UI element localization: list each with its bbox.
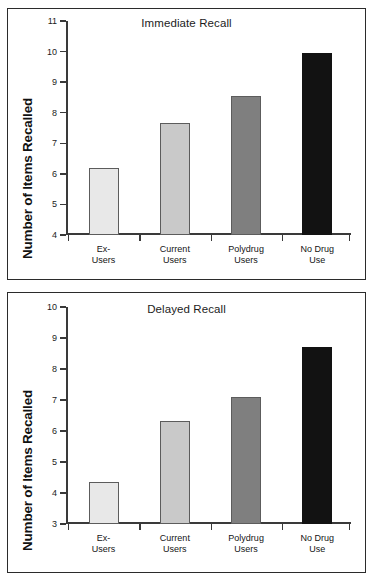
y-tick-mark [60, 204, 67, 205]
y-tick-mark [60, 20, 67, 21]
y-tick-label: 4 [52, 489, 57, 498]
x-tick-label-line: Use [301, 255, 335, 266]
y-tick-label: 8 [52, 108, 57, 117]
x-tick-mark [349, 524, 350, 530]
x-tick-label-delayed-0: Ex-Users [92, 533, 116, 554]
y-tick-label: 10 [47, 47, 57, 56]
x-tick-label-line: Polydrug [228, 533, 264, 544]
y-tick-label: 5 [52, 458, 57, 467]
y-tick-mark [60, 430, 67, 431]
y-tick-mark [60, 523, 67, 524]
y-tick-mark [60, 337, 67, 338]
y-tick-label: 6 [52, 169, 57, 178]
y-axis-line-delayed [66, 307, 68, 524]
x-tick-label-line: No Drug [301, 533, 335, 544]
chart-panel-delayed-recall: Delayed Recall Number of Items Recalled … [7, 292, 366, 573]
x-tick-label-line: Users [228, 255, 264, 266]
y-tick-mark [60, 51, 67, 52]
x-tick-label-line: Ex- [92, 533, 116, 544]
x-tick-mark [211, 235, 212, 241]
x-tick-label-line: Current [160, 244, 190, 255]
y-tick-mark [60, 399, 67, 400]
x-tick-label-line: Users [92, 255, 116, 266]
x-tick-label-delayed-3: No DrugUse [301, 533, 335, 554]
bar-delayed-0 [89, 482, 119, 524]
y-tick-label: 9 [52, 78, 57, 87]
y-tick-label: 9 [52, 334, 57, 343]
x-tick-label-immediate-2: PolydrugUsers [228, 244, 264, 265]
plot-area-immediate-recall: 4567891011Ex-UsersCurrentUsersPolydrugUs… [66, 21, 351, 235]
x-tick-mark [282, 524, 283, 530]
x-tick-mark [139, 524, 140, 530]
plot-area-delayed-recall: 345678910Ex-UsersCurrentUsersPolydrugUse… [66, 307, 351, 524]
bar-delayed-3 [302, 347, 332, 524]
y-axis-line-immediate [66, 21, 68, 235]
y-tick-mark [60, 81, 67, 82]
y-tick-label: 8 [52, 365, 57, 374]
x-tick-mark [139, 235, 140, 241]
y-tick-label: 5 [52, 200, 57, 209]
x-tick-mark [349, 235, 350, 241]
y-tick-label: 7 [52, 396, 57, 405]
y-tick-label: 11 [48, 17, 57, 26]
y-tick-mark [60, 143, 67, 144]
y-tick-label: 3 [52, 520, 57, 529]
y-tick-mark [60, 173, 67, 174]
x-tick-label-immediate-0: Ex-Users [92, 244, 116, 265]
y-tick-mark [60, 461, 67, 462]
y-axis-label-immediate-recall: Number of Items Recalled [20, 98, 35, 259]
y-tick-label: 10 [47, 303, 57, 312]
x-tick-label-line: Ex- [92, 244, 116, 255]
x-tick-mark [211, 524, 212, 530]
x-tick-mark [68, 235, 69, 241]
y-tick-mark [60, 306, 67, 307]
x-tick-mark [68, 524, 69, 530]
x-tick-label-line: Current [160, 533, 190, 544]
x-tick-mark [282, 235, 283, 241]
x-tick-label-line: No Drug [301, 244, 335, 255]
y-tick-mark [60, 368, 67, 369]
x-tick-label-delayed-2: PolydrugUsers [228, 533, 264, 554]
x-tick-label-line: Users [228, 544, 264, 555]
y-axis-label-delayed-recall: Number of Items Recalled [20, 390, 35, 551]
figure-container: Immediate Recall Number of Items Recalle… [0, 0, 373, 580]
y-tick-label: 4 [52, 231, 57, 240]
y-tick-mark [60, 234, 67, 235]
x-tick-label-line: Polydrug [228, 244, 264, 255]
x-tick-label-line: Users [160, 544, 190, 555]
y-tick-label: 7 [52, 139, 57, 148]
x-tick-label-line: Users [92, 544, 116, 555]
y-tick-mark [60, 112, 67, 113]
y-tick-mark [60, 492, 67, 493]
bar-immediate-0 [89, 168, 119, 235]
x-tick-label-line: Users [160, 255, 190, 266]
bar-delayed-1 [160, 421, 190, 524]
bar-immediate-3 [302, 53, 332, 235]
x-tick-label-line: Use [301, 544, 335, 555]
bar-immediate-1 [160, 123, 190, 235]
y-tick-label: 6 [52, 427, 57, 436]
bar-immediate-2 [231, 96, 261, 235]
x-tick-label-delayed-1: CurrentUsers [160, 533, 190, 554]
x-tick-label-immediate-3: No DrugUse [301, 244, 335, 265]
x-tick-label-immediate-1: CurrentUsers [160, 244, 190, 265]
bar-delayed-2 [231, 397, 261, 524]
chart-panel-immediate-recall: Immediate Recall Number of Items Recalle… [7, 8, 366, 280]
